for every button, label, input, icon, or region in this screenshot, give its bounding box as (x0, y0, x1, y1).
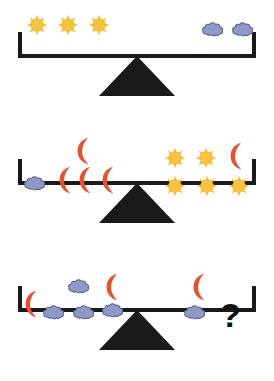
right-pan (0, 0, 274, 127)
balance-puzzle: ? (0, 0, 274, 381)
crescent-moon-icon (190, 272, 207, 302)
cloud-icon (183, 302, 207, 326)
sun-icon (164, 175, 186, 201)
question-mark: ? (220, 298, 241, 332)
cloud-icon (231, 19, 255, 39)
sun-icon (164, 147, 186, 169)
cloud-icon (201, 19, 225, 43)
cloud-icon (201, 19, 225, 39)
sun-icon (164, 147, 186, 173)
crescent-moon-icon (227, 141, 244, 171)
crescent-moon-icon (190, 272, 207, 306)
sun-icon (196, 175, 218, 197)
sun-icon (195, 147, 217, 169)
sun-icon (196, 175, 218, 201)
sun-icon (195, 147, 217, 173)
crescent-moon-icon (227, 141, 244, 175)
right-pan (0, 127, 274, 254)
sun-icon (228, 175, 250, 197)
cloud-icon (231, 19, 255, 43)
sun-icon (228, 175, 250, 201)
balance-scale (0, 0, 274, 127)
cloud-icon (183, 302, 207, 322)
balance-scale: ? (0, 254, 274, 381)
sun-icon (164, 175, 186, 197)
balance-scale (0, 127, 274, 254)
